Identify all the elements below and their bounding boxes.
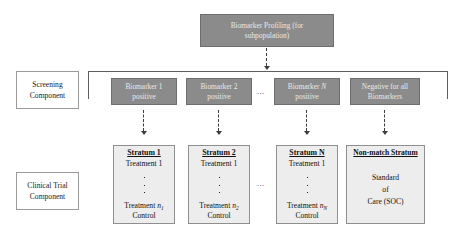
stratum-n-first-treatment: Treatment 1 — [289, 159, 326, 169]
soc-line-1: Standard — [372, 172, 399, 184]
bracket-horizontal-line — [88, 71, 448, 72]
trial-row-ellipsis: ... — [257, 180, 265, 188]
screening-box-2-line1: Biomarker 2 — [200, 82, 237, 91]
stratum-1-vertical-dots — [144, 169, 145, 201]
row-label-screening-component: Screening Component — [16, 71, 79, 109]
stratum-2-vertical-dots — [219, 169, 220, 201]
stratum-n-vertical-dots — [307, 169, 308, 201]
stratum-1-control: Control — [132, 211, 155, 221]
stratum-n-control: Control — [295, 211, 318, 221]
non-match-stratum-title: Non-match Stratum — [353, 148, 417, 158]
screening-box-n-line1-variable: N — [321, 82, 326, 91]
diagram-canvas: Biomarker Profiling (for subpopulation) … — [0, 0, 464, 244]
screening-label-line1: Screening — [32, 80, 62, 89]
stratum-1-last-treatment-subscript: 1 — [161, 205, 164, 211]
screening-box-1-line2: positive — [132, 92, 155, 101]
biomarker-profiling-line2: subpopulation) — [245, 31, 289, 40]
stratum-n-last-treatment-subscript: N — [324, 205, 328, 211]
screening-label-line2: Component — [30, 91, 65, 100]
screening-box-biomarker-2: Biomarker 2 positive — [186, 78, 252, 105]
stratum-1-last-treatment: Treatment n1 — [124, 201, 163, 211]
stratum-2-first-treatment: Treatment 1 — [201, 159, 238, 169]
stratum-2-last-treatment: Treatment n2 — [199, 201, 238, 211]
stratum-1-first-treatment: Treatment 1 — [126, 159, 163, 169]
screening-box-n-line2: positive — [295, 92, 318, 101]
stratum-n-last-treatment: Treatment nN — [287, 201, 327, 211]
stratum-box-2: Stratum 2 Treatment 1 Treatment n2 Contr… — [188, 145, 250, 224]
screening-row-ellipsis: ... — [257, 88, 265, 96]
soc-line-3: Care (SOC) — [367, 196, 403, 208]
biomarker-profiling-line1: Biomarker Profiling (for — [231, 21, 304, 30]
non-match-stratum-body: Standard of Care (SOC) — [367, 159, 403, 221]
bracket-left-drop — [88, 71, 89, 99]
stratum-box-n: Stratum N Treatment 1 Treatment nN Contr… — [276, 145, 338, 224]
stratum-1-last-treatment-prefix: Treatment — [124, 201, 157, 210]
screening-box-2-line2: positive — [207, 92, 230, 101]
stratum-n-title: Stratum N — [289, 148, 324, 158]
stratum-1-title: Stratum 1 — [127, 148, 161, 158]
bracket-right-drop — [447, 71, 448, 99]
stratum-2-last-treatment-prefix: Treatment — [199, 201, 232, 210]
screening-box-1-line1: Biomarker 1 — [125, 82, 162, 91]
stratum-box-1: Stratum 1 Treatment 1 Treatment n1 Contr… — [113, 145, 175, 224]
biomarker-profiling-box: Biomarker Profiling (for subpopulation) — [200, 14, 334, 47]
arrow-biomarker2-to-stratum2 — [215, 110, 222, 136]
arrow-profiling-to-bracket — [263, 48, 270, 71]
stratum-2-control: Control — [207, 211, 230, 221]
stratum-n-last-treatment-prefix: Treatment — [287, 201, 320, 210]
screening-box-neg-line2: Biomarkers — [368, 92, 402, 101]
stratum-n-last-treatment-variable: n — [320, 201, 324, 210]
stratum-2-last-treatment-subscript: 2 — [236, 205, 239, 211]
stratum-2-title: Stratum 2 — [202, 148, 236, 158]
arrow-biomarkern-to-stratumn — [303, 110, 310, 136]
screening-box-neg-line1: Negative for all — [362, 82, 408, 91]
row-label-clinical-trial-component: Clinical Trial Component — [16, 172, 79, 210]
screening-box-biomarker-n: Biomarker N positive — [274, 78, 340, 105]
screening-box-negative-all: Negative for all Biomarkers — [350, 78, 420, 105]
screening-box-n-line1-prefix: Biomarker — [288, 82, 321, 91]
arrow-biomarker1-to-stratum1 — [140, 110, 147, 136]
soc-line-2: of — [382, 184, 388, 196]
non-match-stratum-box: Non-match Stratum Standard of Care (SOC) — [346, 145, 425, 224]
screening-box-biomarker-1: Biomarker 1 positive — [111, 78, 177, 105]
clinical-label-line2: Component — [30, 192, 65, 201]
arrow-negative-to-nonmatch — [381, 110, 388, 136]
clinical-label-line1: Clinical Trial — [27, 181, 67, 190]
